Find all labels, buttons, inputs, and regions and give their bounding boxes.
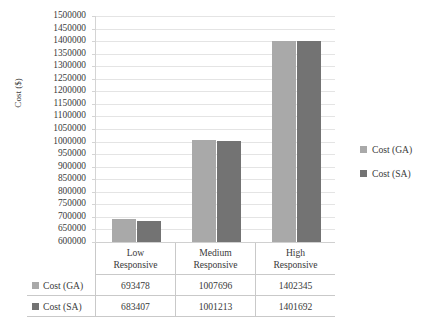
y-axis-tick-label: 750000 bbox=[58, 200, 86, 209]
bar-cost-sa[interactable] bbox=[297, 41, 321, 242]
chart-legend: Cost (GA)Cost (SA) bbox=[360, 144, 412, 179]
bar-cost-sa[interactable] bbox=[217, 141, 241, 242]
series-name: Cost (SA) bbox=[43, 301, 82, 312]
bar-cost-ga[interactable] bbox=[272, 41, 296, 242]
legend-label: Cost (SA) bbox=[372, 168, 411, 179]
y-axis-tick-label: 1200000 bbox=[53, 87, 86, 96]
legend-label: Cost (GA) bbox=[372, 144, 412, 155]
bar-cost-sa[interactable] bbox=[137, 221, 161, 242]
y-axis-title: Cost ($) bbox=[13, 53, 23, 133]
legend-item-1[interactable]: Cost (SA) bbox=[360, 168, 412, 179]
y-axis-tick-label: 800000 bbox=[58, 187, 86, 196]
category-label-line: Responsive bbox=[193, 259, 237, 271]
table-cell: 1007696 bbox=[175, 275, 255, 295]
table-cell: 693478 bbox=[95, 275, 175, 295]
y-axis-tick-label: 900000 bbox=[58, 162, 86, 171]
y-axis-tick-labels: 1500000145000014000001350000130000012500… bbox=[28, 13, 90, 241]
category-label-line: Responsive bbox=[113, 259, 157, 271]
y-axis-tick-label: 1000000 bbox=[53, 137, 86, 146]
legend-color-swatch-icon bbox=[360, 146, 367, 153]
category-axis-labels: LowResponsiveMediumResponsiveHighRespons… bbox=[95, 243, 335, 275]
y-axis-tick-label: 1400000 bbox=[53, 36, 86, 45]
y-axis-tick-label: 600000 bbox=[58, 237, 86, 246]
table-cell: 683407 bbox=[95, 296, 175, 316]
y-axis-tick-label: 650000 bbox=[58, 225, 86, 234]
table-row-header: Cost (GA) bbox=[27, 275, 95, 295]
y-axis-tick-label: 1100000 bbox=[54, 112, 86, 121]
table-row: Cost (SA)68340710012131401692 bbox=[27, 296, 335, 317]
y-axis-tick-label: 1250000 bbox=[53, 74, 86, 83]
category-label-line: Low bbox=[127, 247, 145, 259]
table-cell: 1402345 bbox=[255, 275, 335, 295]
bar-group bbox=[96, 16, 176, 242]
plot-area bbox=[95, 16, 335, 242]
y-axis-tick-label: 1150000 bbox=[54, 99, 86, 108]
category-label-2: HighResponsive bbox=[255, 243, 335, 274]
y-axis-tick-label: 950000 bbox=[58, 149, 86, 158]
table-cell: 1401692 bbox=[255, 296, 335, 316]
table-cell: 1001213 bbox=[175, 296, 255, 316]
table-row-header: Cost (SA) bbox=[27, 296, 95, 316]
y-axis-tick-label: 850000 bbox=[58, 175, 86, 184]
y-axis-tick-label: 1300000 bbox=[53, 62, 86, 71]
y-axis-tick-label: 1500000 bbox=[53, 11, 86, 20]
series-name: Cost (GA) bbox=[43, 280, 83, 291]
bar-group bbox=[256, 16, 336, 242]
series-color-swatch-icon bbox=[32, 282, 39, 289]
bar-group bbox=[176, 16, 256, 242]
y-axis-tick-label: 1050000 bbox=[53, 124, 86, 133]
category-label-line: High bbox=[286, 247, 305, 259]
category-label-1: MediumResponsive bbox=[175, 243, 255, 274]
y-axis-tick-label: 1350000 bbox=[53, 49, 86, 58]
category-label-0: LowResponsive bbox=[95, 243, 175, 274]
y-axis-tick-label: 1450000 bbox=[53, 24, 86, 33]
legend-item-0[interactable]: Cost (GA) bbox=[360, 144, 412, 155]
bar-cost-ga[interactable] bbox=[112, 219, 136, 242]
table-row: Cost (GA)69347810076961402345 bbox=[27, 275, 335, 296]
chart-figure: Cost ($) 1500000145000014000001350000130… bbox=[0, 0, 435, 328]
category-label-line: Medium bbox=[199, 247, 232, 259]
y-axis-tick-label: 700000 bbox=[58, 212, 86, 221]
bar-cost-ga[interactable] bbox=[192, 140, 216, 242]
legend-color-swatch-icon bbox=[360, 170, 367, 177]
category-label-line: Responsive bbox=[273, 259, 317, 271]
series-color-swatch-icon bbox=[32, 303, 39, 310]
